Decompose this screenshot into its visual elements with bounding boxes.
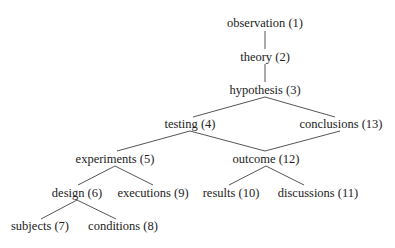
research-process-diagram: observation (1) theory (2) hypothesis (3…: [0, 0, 395, 248]
node-executions: executions (9): [117, 187, 188, 200]
node-discussions: discussions (11): [278, 187, 358, 200]
node-subjects: subjects (7): [11, 220, 69, 233]
node-outcome: outcome (12): [233, 153, 300, 166]
edge-6-to-8: [77, 200, 116, 219]
edge-4-to-12: [190, 131, 265, 151]
node-theory: theory (2): [240, 51, 290, 64]
node-experiments: experiments (5): [76, 153, 155, 166]
node-hypothesis: hypothesis (3): [229, 84, 300, 97]
edge-5-to-6: [78, 166, 115, 185]
node-observation: observation (1): [227, 17, 303, 30]
edge-3-to-4: [193, 97, 265, 117]
edge-12-to-10: [229, 166, 266, 185]
edge-12-to-11: [266, 166, 304, 185]
node-conclusions: conclusions (13): [300, 118, 383, 131]
edge-4-to-5: [117, 131, 190, 151]
edge-13-to-12: [265, 131, 340, 151]
edge-6-to-7: [41, 200, 77, 219]
edge-3-to-13: [265, 97, 335, 117]
node-design: design (6): [52, 187, 102, 200]
node-conditions: conditions (8): [88, 220, 158, 233]
node-results: results (10): [203, 187, 260, 200]
node-testing: testing (4): [164, 118, 215, 131]
edge-5-to-9: [115, 166, 153, 185]
